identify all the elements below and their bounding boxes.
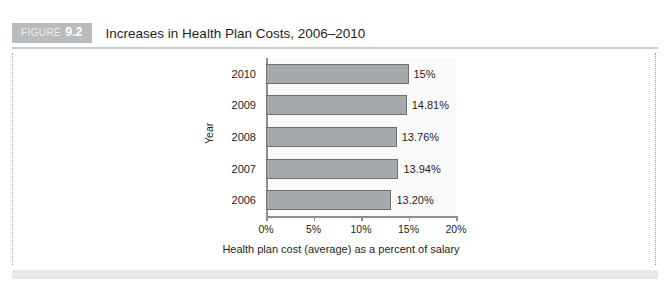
bar-value-label: 13.20% — [396, 194, 433, 206]
x-axis-tick-mark — [456, 216, 458, 221]
figure-number-badge: FIGURE 9.2 — [12, 23, 92, 43]
x-axis-tick-label: 15% — [398, 223, 419, 235]
x-axis-tick-mark — [314, 216, 316, 221]
y-axis-tick-labels: 20102009200820072006 — [216, 58, 262, 216]
figure-body: Year 20102009200820072006 15%14.81%13.76… — [12, 53, 656, 265]
y-axis-tick-label: 2007 — [216, 159, 262, 179]
plot-area: 15%14.81%13.76%13.94%13.20% — [266, 58, 456, 216]
x-axis-tick-labels: 0%5%10%15%20% — [266, 223, 456, 237]
bar-row: 13.20% — [266, 190, 456, 210]
bar — [266, 159, 398, 179]
bar — [266, 95, 407, 115]
bar-value-label: 15% — [414, 68, 436, 80]
x-axis-tick-mark — [409, 216, 411, 221]
bar-row: 13.76% — [266, 127, 456, 147]
x-axis-title: Health plan cost (average) as a percent … — [196, 243, 486, 255]
bar — [266, 127, 397, 147]
y-axis-tick-label: 2009 — [216, 95, 262, 115]
y-axis-tick-label: 2010 — [216, 64, 262, 84]
figure-header: FIGURE 9.2 Increases in Health Plan Cost… — [12, 22, 657, 44]
bar — [266, 64, 409, 84]
x-axis-tick-label: 0% — [258, 223, 273, 235]
figure-footer-band — [12, 270, 658, 279]
bar-row: 13.94% — [266, 159, 456, 179]
x-axis-tick-label: 10% — [350, 223, 371, 235]
y-axis-tick-label: 2006 — [216, 190, 262, 210]
x-axis-tick-mark — [266, 216, 268, 221]
x-axis-tick-label: 20% — [445, 223, 466, 235]
x-axis-tick-marks — [266, 216, 456, 221]
bar-value-label: 14.81% — [412, 99, 449, 111]
y-axis-title: Year — [203, 130, 215, 144]
figure-title: Increases in Health Plan Costs, 2006–201… — [106, 26, 366, 41]
bar-chart: Year 20102009200820072006 15%14.81%13.76… — [196, 53, 486, 265]
bar-row: 15% — [266, 64, 456, 84]
figure-badge-word: FIGURE — [21, 26, 61, 39]
bar-value-label: 13.76% — [402, 131, 439, 143]
bar-row: 14.81% — [266, 95, 456, 115]
x-axis-tick-label: 5% — [306, 223, 321, 235]
bar-series: 15%14.81%13.76%13.94%13.20% — [266, 58, 456, 216]
bar-value-label: 13.94% — [403, 163, 440, 175]
figure-container: FIGURE 9.2 Increases in Health Plan Cost… — [0, 0, 669, 293]
header-divider — [12, 47, 658, 49]
x-axis-tick-mark — [361, 216, 363, 221]
y-axis-tick-label: 2008 — [216, 127, 262, 147]
figure-badge-number: 9.2 — [65, 26, 82, 39]
bar — [266, 190, 391, 210]
